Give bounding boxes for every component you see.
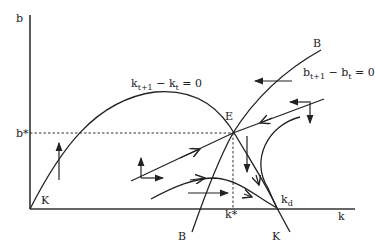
- b-star-label: b*: [16, 127, 29, 140]
- k-locus-origin-label: K: [41, 194, 50, 207]
- b-locus-label: bt+1 − bt = 0: [303, 66, 375, 81]
- b-locus-curve: [192, 50, 321, 232]
- equilibrium-label: E: [225, 110, 233, 123]
- k-locus-label: kt+1 − kt = 0: [131, 77, 202, 92]
- k-locus-bottom-label: K: [272, 230, 281, 243]
- x-axis-label: k: [338, 210, 345, 223]
- b-locus-top-label: B: [313, 37, 321, 50]
- k-star-label: k*: [225, 208, 238, 221]
- arrow-open-hump-right: [244, 194, 252, 197]
- arrow-open-curved: [256, 175, 259, 185]
- b-locus-bottom-label: B: [178, 230, 186, 243]
- arrow-open-lower: [180, 149, 200, 158]
- phase-diagram: b k b* k* E kd kt+1 − kt = 0 bt+1 − bt =…: [0, 0, 375, 252]
- y-axis-label: b: [16, 12, 23, 25]
- arrow-open-upper: [260, 118, 272, 123]
- k-locus-curve: [30, 92, 290, 232]
- kd-label: kd: [281, 193, 293, 208]
